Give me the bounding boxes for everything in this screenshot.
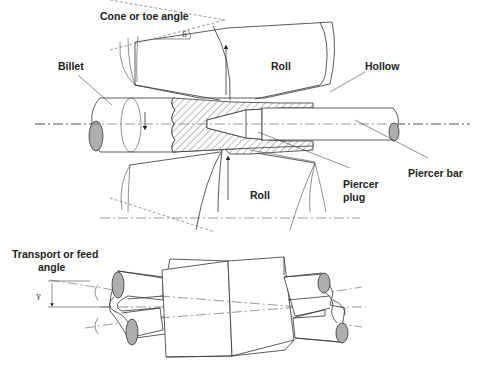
lower-rotation-symbol — [95, 318, 98, 334]
billet-label: Billet — [58, 60, 84, 72]
left-roll-body — [162, 261, 232, 357]
piercer-bar-label: Piercer bar — [408, 167, 463, 179]
upper-roll — [120, 22, 335, 100]
feed-angle-symbol: γ — [36, 291, 41, 300]
upper-rotation-symbol — [95, 285, 98, 300]
feed-angle-label-line2: angle — [38, 261, 66, 273]
hollow-label: Hollow — [365, 60, 400, 72]
feed-angle-label-line1: Transport or feed — [12, 248, 98, 260]
piercer-plug-label-line1: Piercer — [343, 178, 379, 190]
cone-angle-label: Cone or toe angle — [100, 10, 189, 22]
right-lower-neck-end — [336, 323, 348, 343]
billet-leader — [78, 75, 112, 105]
roll-label-lower: Roll — [250, 189, 270, 201]
top-view: δ — [35, 0, 470, 232]
billet — [89, 98, 175, 152]
lower-roll — [110, 150, 326, 232]
side-view: Transport or feed angle γ — [12, 248, 366, 357]
piercer-plug-label-line2: plug — [343, 191, 365, 203]
left-upper-neck-end — [112, 272, 124, 298]
hollow-leader — [330, 72, 365, 92]
billet-end-face — [89, 121, 103, 151]
roll-label-upper: Roll — [271, 60, 291, 72]
cone-angle-symbol: δ — [182, 30, 187, 39]
right-upper-neck-end — [318, 273, 330, 293]
rotary-piercing-diagram: δ — [0, 0, 477, 369]
left-lower-neck-end — [126, 319, 138, 345]
